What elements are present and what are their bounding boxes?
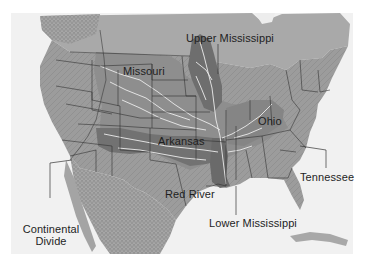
label-tennessee: Tennessee — [300, 171, 354, 183]
label-arkansas: Arkansas — [158, 135, 205, 147]
label-continental-divide: Continental Divide — [22, 223, 80, 247]
label-upper-mississippi: Upper Mississippi — [186, 32, 274, 44]
label-continental-divide-line2: Divide — [22, 235, 80, 247]
label-lower-mississippi: Lower Mississippi — [209, 217, 297, 229]
map-figure: Missouri Upper Mississippi Ohio Arkansas… — [0, 0, 371, 268]
label-ohio: Ohio — [258, 115, 282, 127]
label-red-river: Red River — [165, 188, 215, 200]
label-continental-divide-line1: Continental — [22, 223, 80, 235]
label-missouri: Missouri — [123, 65, 165, 77]
